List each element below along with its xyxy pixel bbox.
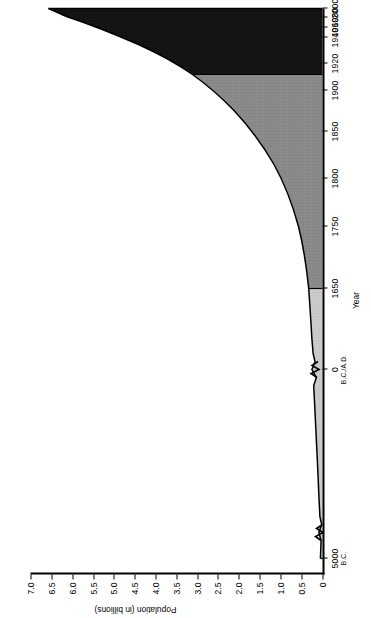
y-tick-3.5 <box>176 574 177 579</box>
population-area-chart <box>0 0 371 618</box>
x-tick-label-1750: 1750 <box>329 216 339 236</box>
area-segment-recent <box>48 8 322 74</box>
x-tick-1900 <box>322 89 327 90</box>
y-tick-7.0 <box>30 574 31 579</box>
x-tick-1850 <box>322 130 327 131</box>
chart-screenshot: 0 0.5 1.0 1.5 2.0 2.5 3.0 3.5 4.0 4.5 5.… <box>0 0 371 618</box>
x-tick-sublabel-5000bc: B.C. <box>339 551 346 565</box>
y-tick-label-6.0: 6.0 <box>67 582 77 594</box>
plot-area: 0 0.5 1.0 1.5 2.0 2.5 3.0 3.5 4.0 4.5 5.… <box>0 0 371 618</box>
y-tick-label-5.5: 5.5 <box>88 582 98 594</box>
x-tick-1960 <box>322 26 327 27</box>
x-tick-0 <box>322 368 327 369</box>
x-tick-1750 <box>322 225 327 226</box>
y-tick-label-1.0: 1.0 <box>275 582 285 594</box>
x-axis-title: Year <box>350 292 360 309</box>
x-tick-label-1920: 1920 <box>329 53 339 73</box>
y-tick-1.5 <box>259 574 260 579</box>
y-tick-label-5.0: 5.0 <box>108 582 118 594</box>
y-tick-label-3.0: 3.0 <box>192 582 202 594</box>
y-tick-2.0 <box>238 574 239 579</box>
y-tick-0.5 <box>301 574 302 579</box>
y-tick-5.0 <box>113 574 114 579</box>
x-axis-line <box>322 8 324 574</box>
y-tick-label-2.5: 2.5 <box>212 582 222 594</box>
x-tick-1920 <box>322 62 327 63</box>
rotated-figure: 0 0.5 1.0 1.5 2.0 2.5 3.0 3.5 4.0 4.5 5.… <box>0 0 371 618</box>
x-tick-1980 <box>322 16 327 17</box>
y-tick-4.5 <box>134 574 135 579</box>
y-tick-label-2.0: 2.0 <box>233 582 243 594</box>
y-tick-4.0 <box>155 574 156 579</box>
y-tick-6.0 <box>72 574 73 579</box>
y-tick-6.5 <box>51 574 52 579</box>
x-tick-label-1800: 1800 <box>329 168 339 188</box>
x-tick-1650 <box>322 287 327 288</box>
y-tick-label-3.5: 3.5 <box>171 582 181 594</box>
y-tick-label-4.5: 4.5 <box>129 582 139 594</box>
x-tick-label-5000bc: 5000 <box>329 548 339 568</box>
x-tick-label-1650: 1650 <box>329 278 339 298</box>
x-tick-label-0: 0 <box>329 367 339 372</box>
x-tick-label-2000: 2000 <box>329 0 339 18</box>
y-tick-3.0 <box>197 574 198 579</box>
y-axis-title: Population (in billions) <box>94 604 176 614</box>
y-tick-label-6.5: 6.5 <box>46 582 56 594</box>
y-tick-label-4.0: 4.0 <box>150 582 160 594</box>
y-tick-label-7.0: 7.0 <box>25 582 35 594</box>
y-tick-label-0.5: 0.5 <box>296 582 306 594</box>
x-tick-label-1850: 1850 <box>329 121 339 141</box>
area-segment-modern <box>192 74 322 288</box>
y-tick-1.0 <box>280 574 281 579</box>
x-tick-1800 <box>322 177 327 178</box>
x-tick-label-1900: 1900 <box>329 80 339 100</box>
x-tick-2000 <box>322 7 327 8</box>
y-tick-5.5 <box>93 574 94 579</box>
y-tick-2.5 <box>217 574 218 579</box>
x-tick-sublabel-0: B.C./A.D. <box>339 354 346 383</box>
y-tick-label-0: 0 <box>317 582 327 587</box>
x-tick-5000bc <box>322 557 327 558</box>
x-tick-1940 <box>322 36 327 37</box>
y-tick-0 <box>322 574 323 579</box>
y-tick-label-1.5: 1.5 <box>254 582 264 594</box>
